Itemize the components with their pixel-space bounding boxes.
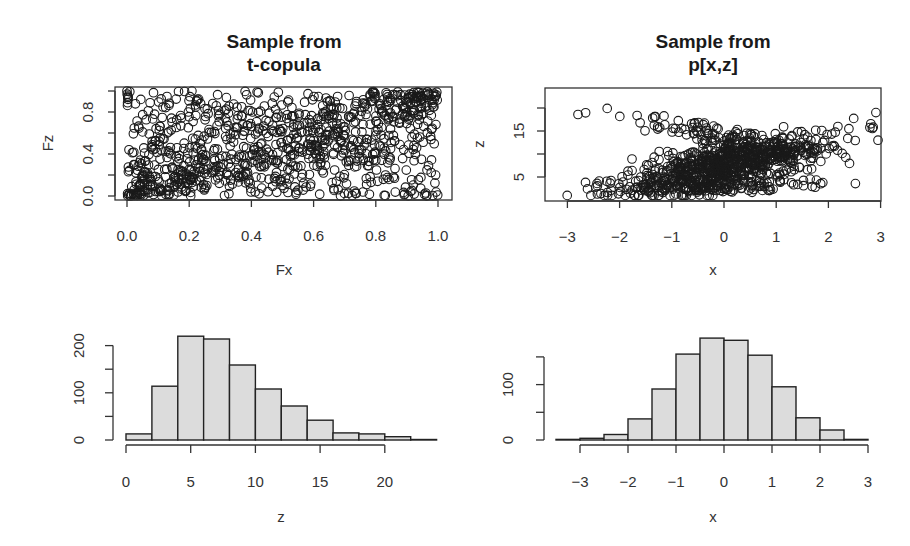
scatter-point: [636, 119, 645, 128]
x-tick-label: 0: [720, 228, 728, 245]
figure: Sample from t-copula 0.00.20.40.60.81.0 …: [0, 0, 910, 546]
scatter-point: [834, 122, 843, 131]
scatter-point: [402, 166, 411, 175]
panel-tcopula-scatter: Sample from t-copula 0.00.20.40.60.81.0 …: [39, 31, 452, 278]
histogram-bar: [820, 430, 844, 440]
scatter-point: [391, 164, 400, 173]
x-tick-label: 20: [376, 473, 393, 490]
y-axis: 0.00.40.8: [79, 91, 115, 206]
histogram-bar: [333, 433, 359, 440]
scatter-point: [222, 93, 231, 102]
panel-title-line1: Sample from: [226, 31, 341, 52]
x-axis-label: x: [709, 261, 717, 278]
scatter-point: [345, 91, 354, 100]
scatter-point: [812, 135, 821, 144]
scatter-point: [641, 127, 650, 136]
y-axis: 515: [510, 108, 545, 181]
histogram-bar: [204, 339, 230, 440]
histogram-bar: [281, 406, 307, 440]
scatter-point: [351, 128, 360, 137]
scatter-point: [221, 124, 230, 133]
y-axis: 0100: [499, 357, 544, 444]
scatter-point: [131, 100, 140, 109]
scatter-point: [811, 126, 820, 135]
y-tick-label: 0.8: [79, 102, 96, 123]
scatter-point: [872, 108, 881, 117]
x-tick-label: 3: [876, 228, 884, 245]
scatter-point: [273, 188, 282, 197]
histogram-bar: [700, 338, 724, 440]
x-tick-label: −3: [571, 473, 588, 490]
panel-histogram-z: 05101520 0100200 z: [70, 333, 437, 525]
scatter-point: [373, 177, 382, 186]
histogram-bar: [724, 340, 748, 440]
panel-histogram-x: −3−2−10123 0100 x: [499, 338, 872, 525]
x-tick-label: 0.2: [179, 227, 200, 244]
x-axis-label: Fx: [276, 261, 293, 278]
scatter-point: [149, 88, 158, 97]
scatter-point: [845, 124, 854, 133]
scatter-point: [213, 90, 222, 99]
y-axis-label: z: [470, 140, 487, 148]
y-tick-label: 0.4: [79, 144, 96, 165]
scatter-point: [417, 173, 426, 182]
x-tick-label: 0.4: [241, 227, 262, 244]
scatter-point: [432, 188, 441, 197]
y-tick-label: 100: [70, 380, 87, 405]
y-tick-label: 0: [499, 436, 516, 444]
histogram-bar: [628, 419, 652, 440]
histogram-bar: [772, 387, 796, 440]
scatter-point: [241, 87, 250, 96]
x-tick-label: 0.8: [365, 227, 386, 244]
x-axis-label: x: [709, 508, 717, 525]
x-tick-label: 1.0: [428, 227, 449, 244]
x-axis: 05101520: [122, 445, 393, 490]
scatter-point: [372, 166, 381, 175]
scatter-point: [603, 104, 612, 113]
scatter-point: [628, 155, 637, 164]
x-tick-label: 0.0: [117, 227, 138, 244]
x-tick-label: 3: [864, 473, 872, 490]
x-tick-label: 5: [187, 473, 195, 490]
histogram-bar: [652, 389, 676, 440]
scatter-point: [146, 99, 155, 108]
x-tick-label: 10: [247, 473, 264, 490]
scatter-point: [265, 109, 274, 118]
x-axis: 0.00.20.40.60.81.0: [117, 200, 449, 244]
x-tick-label: 2: [824, 228, 832, 245]
scatter-point: [391, 188, 400, 197]
scatter-point: [158, 113, 167, 122]
y-axis-label: Fz: [39, 135, 56, 152]
x-axis: −3−2−10123: [571, 445, 872, 490]
scatter-point: [184, 123, 193, 132]
scatter-point: [254, 108, 263, 117]
x-tick-label: 0: [720, 473, 728, 490]
histogram-bars: [126, 336, 437, 440]
scatter-point: [660, 112, 669, 121]
histogram-bar: [411, 440, 437, 441]
scatter-point: [315, 190, 324, 199]
x-tick-label: −3: [559, 228, 576, 245]
x-tick-label: −2: [611, 228, 628, 245]
scatter-point: [264, 187, 273, 196]
x-tick-label: −1: [667, 473, 684, 490]
x-tick-label: 0: [122, 473, 130, 490]
y-tick-label: 100: [499, 372, 516, 397]
histogram-bar: [307, 420, 333, 440]
scatter-points: [563, 104, 882, 200]
panel-title-line2: p[x,z]: [688, 54, 738, 75]
scatter-point: [137, 95, 146, 104]
x-axis-label: z: [277, 508, 285, 525]
scatter-point: [129, 130, 138, 139]
histogram-bar: [230, 365, 256, 440]
x-tick-label: 0.6: [303, 227, 324, 244]
scatter-point: [655, 147, 664, 156]
scatter-point: [779, 123, 788, 132]
histogram-bar: [178, 336, 204, 440]
histogram-bar: [844, 439, 868, 440]
histogram-bar: [556, 439, 580, 440]
histogram-bar: [676, 354, 700, 440]
x-tick-label: 1: [768, 473, 776, 490]
y-tick-label: 200: [70, 333, 87, 358]
x-tick-label: −1: [663, 228, 680, 245]
